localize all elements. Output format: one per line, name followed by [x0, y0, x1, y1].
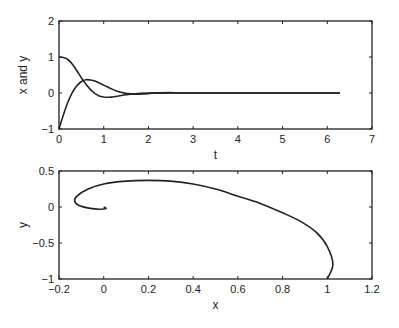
x-tick-label: 0.6 [230, 283, 245, 295]
axes-frame [59, 21, 372, 129]
x-tick-label: 3 [190, 133, 196, 145]
figure: 01234567−1012tx and y −0.200.20.40.60.81… [0, 0, 399, 328]
x-tick-label: 4 [235, 133, 241, 145]
y-tick-label: 0 [48, 201, 54, 213]
x-tick-label: 5 [280, 133, 286, 145]
x-tick-label: 0.8 [275, 283, 290, 295]
y-tick-label: −1 [41, 273, 54, 285]
x-tick-label: 6 [324, 133, 330, 145]
series-line-y [59, 80, 340, 129]
y-tick-label: −1 [41, 123, 54, 135]
x-tick-label: 1.2 [364, 283, 379, 295]
x-axis-label: x [213, 298, 219, 312]
y-tick-label: −0.5 [32, 237, 54, 249]
phase-plot: −0.200.20.40.60.811.2−1−0.500.5xy [16, 165, 380, 312]
y-tick-label: 0 [48, 87, 54, 99]
y-tick-label: 2 [48, 15, 54, 27]
x-tick-label: 7 [369, 133, 375, 145]
y-axis-label: y [16, 222, 30, 228]
y-tick-label: 0.5 [39, 165, 54, 177]
time-series-plot: 01234567−1012tx and y [16, 15, 375, 162]
y-axis-label: x and y [16, 56, 30, 95]
series-line-x [59, 57, 340, 97]
x-tick-label: 1 [101, 133, 107, 145]
series-line-phase-trajectory [75, 180, 333, 279]
x-tick-label: 2 [145, 133, 151, 145]
y-tick-label: 1 [48, 51, 54, 63]
axes-frame [59, 171, 372, 279]
x-axis-label: t [214, 148, 218, 162]
x-tick-label: 0 [101, 283, 107, 295]
x-tick-label: 0.2 [141, 283, 156, 295]
x-tick-label: 0.4 [185, 283, 200, 295]
x-tick-label: 0 [56, 133, 62, 145]
x-tick-label: 1 [324, 283, 330, 295]
